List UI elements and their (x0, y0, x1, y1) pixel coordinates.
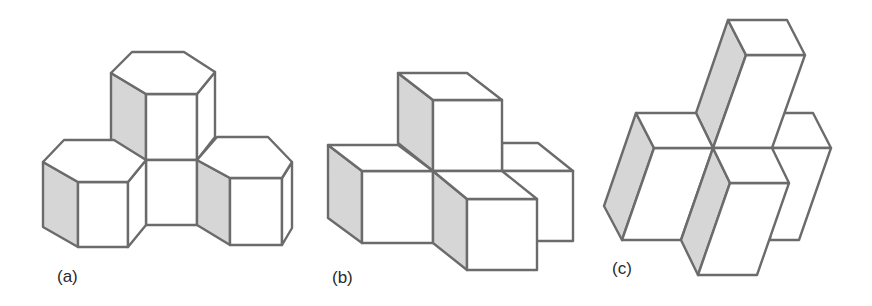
panel-label-c: (c) (612, 259, 632, 278)
front-face (146, 94, 197, 160)
front-face (433, 100, 502, 171)
figure: (a) (b) (0, 0, 872, 306)
cube-front-right (433, 171, 537, 270)
center-front-face (146, 160, 197, 225)
center-prism (146, 160, 197, 225)
hex-prism-left (43, 140, 146, 247)
panel-b: (b) (328, 73, 573, 287)
front-face (230, 178, 282, 245)
front-face (362, 171, 433, 243)
panel-label-a: (a) (57, 267, 78, 286)
front-face (467, 199, 537, 270)
cube-left (328, 145, 433, 243)
hex-prism-right (197, 137, 292, 245)
front-face (78, 182, 128, 247)
hex-prism-top (111, 52, 215, 160)
top-face (502, 143, 573, 171)
panel-label-b: (b) (332, 268, 353, 287)
panel-a: (a) (43, 52, 292, 286)
panel-c: (c) (604, 20, 831, 278)
